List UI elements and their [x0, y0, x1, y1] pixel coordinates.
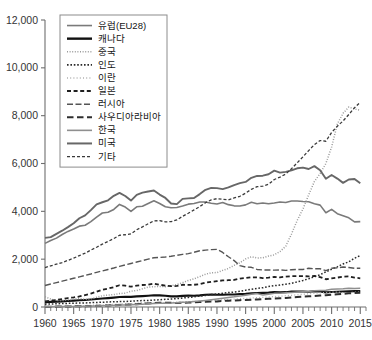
x-tick-label: 1990: [205, 317, 229, 329]
x-tick-label: 1985: [177, 317, 201, 329]
x-tick-label: 2005: [291, 317, 315, 329]
x-tick-label: 1970: [91, 317, 115, 329]
series-line: [45, 201, 360, 244]
y-tick-label: 2,000: [12, 253, 38, 265]
legend-item-label: 캐나다: [98, 33, 125, 44]
line-chart: 02,0004,0006,0008,00010,00012,000 196019…: [0, 0, 372, 340]
y-tick-label: 4,000: [12, 205, 38, 217]
x-tick-label: 1980: [148, 317, 172, 329]
x-tick-label: 2010: [320, 317, 344, 329]
x-tick-label: 2015: [349, 317, 372, 329]
legend-item-label: 중국: [98, 46, 116, 57]
legend-item-label: 기타: [98, 151, 116, 162]
legend-item-label: 사우디아라비아: [98, 111, 161, 122]
series-line: [45, 249, 360, 285]
legend-item-label: 일본: [98, 85, 116, 96]
series-line: [45, 288, 360, 306]
x-tick-label: 1960: [33, 317, 57, 329]
chart-canvas: 02,0004,0006,0008,00010,00012,000 196019…: [0, 0, 372, 340]
x-tick-label: 1975: [119, 317, 143, 329]
y-tick-label: 10,000: [6, 61, 38, 73]
legend-item-label: 러시아: [98, 98, 125, 109]
legend-item-label: 이란: [98, 72, 116, 83]
y-tick-label: 12,000: [6, 14, 38, 26]
series-line: [45, 256, 360, 305]
y-tick-label: 0: [32, 301, 38, 313]
y-tick-label: 8,000: [12, 109, 38, 121]
legend-item-label: 유럽(EU28): [98, 20, 146, 31]
x-tick-label: 1995: [234, 317, 258, 329]
legend-item-label: 인도: [98, 59, 116, 70]
y-axis: 02,0004,0006,0008,00010,00012,000: [6, 14, 45, 313]
x-tick-label: 2000: [263, 317, 287, 329]
chart-legend: 유럽(EU28)캐나다중국인도이란일본러시아사우디아라비아한국미국기타: [60, 15, 167, 167]
x-tick-label: 1965: [62, 317, 86, 329]
y-tick-label: 6,000: [12, 157, 38, 169]
series-line: [45, 276, 360, 302]
x-axis: 1960196519701975198019851990199520002005…: [33, 307, 372, 329]
legend-item-label: 한국: [98, 124, 116, 135]
legend-item-label: 미국: [98, 137, 116, 148]
